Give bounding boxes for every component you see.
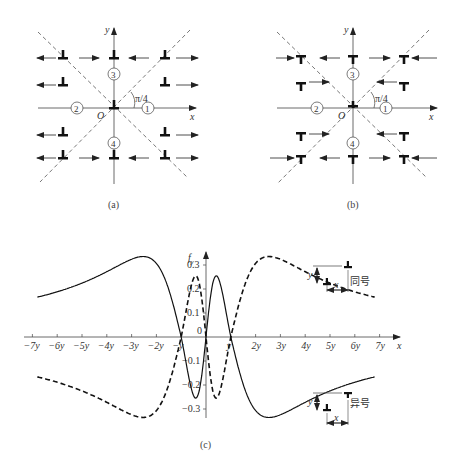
x-tick-label: 7y <box>376 340 386 351</box>
panel-b: y x O π/4 1 2 3 4 <box>270 24 437 211</box>
dislocation-icon <box>58 77 68 87</box>
dislocation-t-icon <box>348 55 358 64</box>
dislocation-t-icon <box>296 132 306 141</box>
x-tick-label: −3y <box>123 340 140 351</box>
dislocation-t-icon <box>348 155 358 164</box>
region-4: 4 <box>108 137 120 149</box>
legend-same-sign: y x 同号 <box>307 261 370 292</box>
figure-canvas: y x O π/4 1 2 3 4 <box>0 0 457 473</box>
panel-a: y x O π/4 1 2 3 4 <box>37 24 198 211</box>
dislocation-t-icon <box>399 82 409 91</box>
dislocation-icon <box>323 278 331 285</box>
svg-text:1: 1 <box>383 104 388 114</box>
x-axis-label: x <box>428 111 434 122</box>
region-3: 3 <box>347 68 359 80</box>
svg-text:1: 1 <box>145 104 150 114</box>
x-tick-label: −7y <box>23 340 40 351</box>
dislocation-icon <box>58 50 68 60</box>
y-tick-label: 0 <box>197 325 202 336</box>
legend-y-label: y <box>307 269 313 280</box>
region-4: 4 <box>347 137 359 149</box>
dislocation-icon <box>109 150 119 160</box>
region-2: 2 <box>311 102 323 114</box>
svg-text:3: 3 <box>350 70 355 80</box>
y-axis-label: y <box>343 24 349 35</box>
region-1: 1 <box>142 102 154 114</box>
caption-c: (c) <box>200 439 211 451</box>
region-1: 1 <box>380 102 392 114</box>
svg-text:4: 4 <box>111 139 116 149</box>
dislocation-icon <box>160 150 170 160</box>
legend-x-label: x <box>333 279 339 290</box>
x-axis-label: x <box>189 111 195 122</box>
dislocation-icon <box>323 404 331 411</box>
x-tick-label: 3y <box>275 340 286 351</box>
x-tick-label: −2y <box>147 340 164 351</box>
dislocation-t-icon <box>399 55 409 64</box>
dislocation-icon <box>160 77 170 87</box>
svg-text:4: 4 <box>350 139 355 149</box>
dislocation-t-icon <box>296 155 306 164</box>
region-2: 2 <box>71 102 83 114</box>
y-axis-label: y <box>104 24 110 35</box>
svg-text:3: 3 <box>111 70 116 80</box>
y-tick-label: 0.3 <box>187 259 200 270</box>
legend-same-label: 同号 <box>350 276 370 287</box>
x-tick-label: 2y <box>252 340 262 351</box>
panel-c: x fy −7y−6y−5y−4y−3y−2y−yy2y3y4y5y6y7y −… <box>23 252 402 451</box>
x-tick-label: −6y <box>48 340 65 351</box>
legend-y-label: y <box>307 396 313 407</box>
region-3: 3 <box>108 68 120 80</box>
caption-b: (b) <box>347 199 359 211</box>
x-tick-label: −4y <box>98 340 115 351</box>
dislocation-icon <box>109 100 119 110</box>
legend-opposite-label: 异号 <box>350 398 370 409</box>
legend-x-label: x <box>333 412 339 423</box>
dislocation-icon <box>109 50 119 60</box>
dislocation-t-icon <box>296 82 306 91</box>
svg-text:2: 2 <box>314 104 319 114</box>
x-tick-label: 5y <box>326 340 336 351</box>
caption-a: (a) <box>108 199 119 211</box>
svg-text:2: 2 <box>74 104 79 114</box>
dislocation-icon <box>344 261 352 268</box>
dislocation-icon <box>58 127 68 137</box>
dislocation-icon <box>160 127 170 137</box>
y-tick-label: 0.1 <box>187 307 200 318</box>
y-tick-label: −0.3 <box>182 403 200 414</box>
y-tick-label: 0.2 <box>187 283 200 294</box>
dislocation-t-icon <box>399 132 409 141</box>
x-tick-label: 6y <box>351 340 361 351</box>
origin-label: O <box>338 110 345 121</box>
origin-label: O <box>97 110 104 121</box>
x-tick-label: 4y <box>301 340 311 351</box>
x-axis-label: x <box>396 340 402 351</box>
dislocation-t-icon <box>296 55 306 64</box>
x-tick-label: −5y <box>73 340 90 351</box>
